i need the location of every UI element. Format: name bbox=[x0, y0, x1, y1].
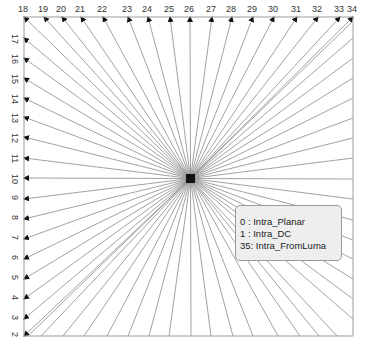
ray-mode-16 bbox=[24, 58, 191, 179]
ray-extension bbox=[107, 179, 191, 337]
top-mode-label: 26 bbox=[184, 4, 194, 14]
left-mode-label: 10 bbox=[10, 174, 20, 184]
ray-extension bbox=[28, 179, 191, 337]
left-mode-label: 5 bbox=[10, 275, 20, 280]
ray-extension bbox=[191, 179, 212, 337]
mode-legend: 0 : Intra_Planar 1 : Intra_DC 35: Intra_… bbox=[235, 205, 342, 261]
ray-mode-24 bbox=[148, 17, 191, 179]
ray-mode-25 bbox=[170, 17, 191, 179]
left-mode-label: 2 bbox=[10, 332, 20, 337]
ray-extension bbox=[191, 179, 192, 337]
ray-mode-18 bbox=[24, 17, 191, 179]
ray-mode-34 bbox=[191, 17, 354, 179]
intra-mode-diagram: 1819202122232425262728293031323334 17161… bbox=[0, 0, 371, 349]
ray-mode-3 bbox=[24, 179, 191, 320]
left-mode-label: 7 bbox=[10, 235, 20, 240]
ray-extension bbox=[169, 179, 191, 337]
legend-item-fromluma: 35: Intra_FromLuma bbox=[240, 240, 341, 252]
ray-extension bbox=[191, 78, 354, 179]
ray-mode-15 bbox=[24, 78, 191, 179]
ray-extension bbox=[191, 38, 354, 179]
top-mode-label: 31 bbox=[291, 4, 301, 14]
ray-mode-33 bbox=[191, 17, 341, 179]
left-mode-label: 15 bbox=[10, 74, 20, 84]
ray-mode-27 bbox=[191, 17, 213, 179]
top-mode-label: 25 bbox=[164, 4, 174, 14]
top-mode-label: 21 bbox=[75, 4, 85, 14]
ray-extension bbox=[191, 138, 354, 179]
ray-mode-14 bbox=[24, 98, 191, 179]
ray-extension bbox=[191, 179, 354, 200]
left-mode-label: 3 bbox=[10, 315, 20, 320]
ray-mode-19 bbox=[44, 17, 191, 179]
ray-mode-11 bbox=[24, 158, 191, 179]
left-mode-label: 8 bbox=[10, 215, 20, 220]
top-mode-label: 32 bbox=[312, 4, 322, 14]
top-mode-label: 30 bbox=[268, 4, 278, 14]
left-mode-label: 13 bbox=[10, 113, 20, 123]
ray-extension bbox=[191, 179, 234, 337]
ray-mode-10 bbox=[24, 178, 191, 179]
legend-item-planar: 0 : Intra_Planar bbox=[240, 216, 341, 228]
ray-extension bbox=[191, 179, 354, 180]
left-mode-label: 9 bbox=[10, 195, 20, 200]
top-mode-label: 29 bbox=[247, 4, 257, 14]
ray-mode-9 bbox=[24, 179, 191, 200]
ray-mode-2 bbox=[24, 179, 191, 337]
top-mode-label: 18 bbox=[18, 4, 28, 14]
ray-mode-28 bbox=[191, 17, 233, 179]
top-mode-label: 24 bbox=[142, 4, 152, 14]
legend-item-dc: 1 : Intra_DC bbox=[240, 228, 341, 240]
left-mode-label: 16 bbox=[10, 54, 20, 64]
top-mode-label: 28 bbox=[226, 4, 236, 14]
top-mode-label: 22 bbox=[97, 4, 107, 14]
left-mode-label: 4 bbox=[10, 295, 20, 300]
ray-mode-6 bbox=[24, 179, 191, 260]
top-mode-label: 20 bbox=[56, 4, 66, 14]
top-mode-label: 23 bbox=[122, 4, 132, 14]
ray-extension bbox=[191, 98, 354, 179]
ray-extension bbox=[149, 179, 191, 337]
ray-mode-26 bbox=[190, 17, 191, 179]
top-mode-label: 33 bbox=[334, 4, 344, 14]
top-mode-labels: 1819202122232425262728293031323334 bbox=[18, 4, 357, 14]
left-mode-label: 11 bbox=[10, 154, 20, 163]
center-point bbox=[186, 174, 195, 183]
left-mode-label: 12 bbox=[10, 133, 20, 143]
left-mode-label: 17 bbox=[10, 34, 20, 44]
left-mode-label: 6 bbox=[10, 255, 20, 260]
ray-mode-21 bbox=[81, 17, 191, 179]
top-mode-label: 19 bbox=[38, 4, 48, 14]
ray-extension bbox=[41, 179, 191, 337]
ray-extension bbox=[191, 158, 354, 179]
top-mode-label: 34 bbox=[347, 4, 357, 14]
ray-mode-30 bbox=[191, 17, 275, 179]
ray-mode-20 bbox=[62, 17, 191, 179]
ray-mode-22 bbox=[103, 17, 191, 179]
ray-extension bbox=[191, 21, 354, 179]
ray-mode-5 bbox=[24, 179, 191, 280]
ray-mode-8 bbox=[24, 179, 191, 220]
ray-mode-23 bbox=[128, 17, 191, 179]
top-mode-label: 27 bbox=[206, 4, 216, 14]
left-mode-labels: 171615141312111098765432 bbox=[10, 34, 20, 337]
left-mode-label: 14 bbox=[10, 94, 20, 104]
